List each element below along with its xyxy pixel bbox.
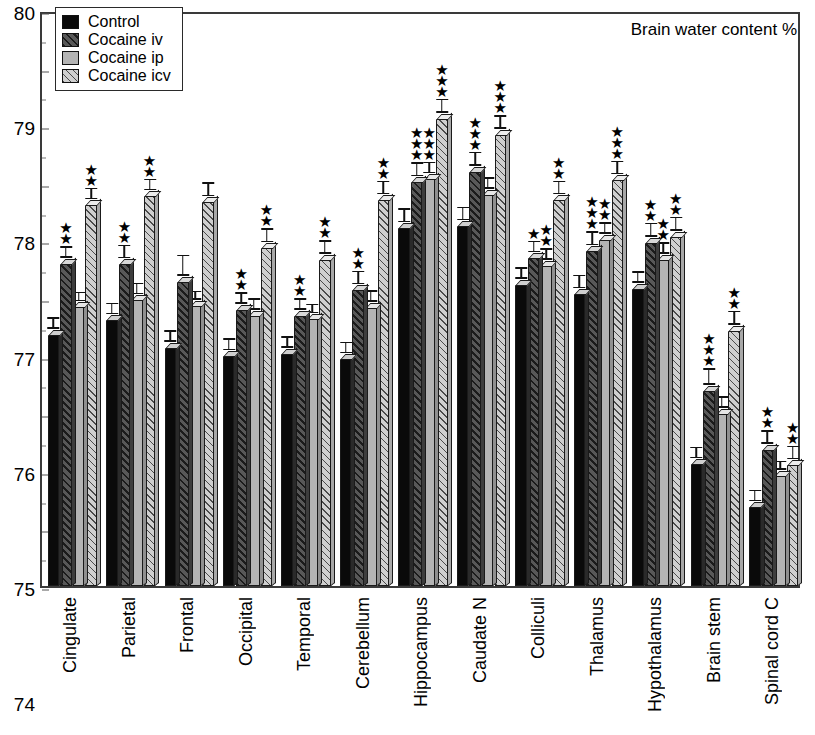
error-bar	[500, 115, 502, 129]
error-bar	[149, 179, 151, 191]
y-tick-label: 78	[14, 234, 35, 253]
star-icon: ★	[552, 168, 565, 179]
bar-side	[72, 257, 76, 586]
error-bar	[708, 368, 710, 384]
bar-side	[448, 112, 452, 586]
bar-control	[281, 349, 293, 586]
bar-face	[48, 335, 60, 586]
star-icon: ★	[527, 228, 540, 239]
star-icon: ★	[539, 235, 552, 246]
error-bar	[792, 446, 794, 460]
significance-marker: ★★	[786, 422, 799, 444]
error-bar	[487, 177, 489, 189]
bar-side	[552, 259, 556, 586]
x-axis-label: Occipital	[236, 597, 257, 729]
bar-group: ★★★★★★	[627, 14, 685, 586]
star-icon: ★	[235, 279, 248, 290]
bar-side	[176, 342, 180, 586]
legend-swatch-icv	[62, 69, 79, 83]
bar-side	[598, 245, 602, 586]
significance-marker: ★★	[552, 157, 565, 179]
error-bar	[253, 298, 255, 310]
bar-side	[189, 275, 193, 586]
error-bar	[170, 330, 172, 342]
error-bar	[357, 271, 359, 285]
x-axis-label: Spinal cord C	[762, 597, 783, 729]
significance-marker: ★★	[293, 274, 306, 296]
bar-group: ★★★★	[744, 14, 802, 586]
significance-marker: ★★	[727, 287, 740, 309]
bar-group: ★★★★★★★★	[568, 14, 626, 586]
bar-face	[574, 294, 586, 586]
error-bar	[345, 342, 347, 354]
bar-group	[159, 14, 217, 586]
error-bar	[266, 228, 268, 242]
error-bar	[90, 188, 92, 200]
bar-side	[84, 301, 88, 586]
x-axis-label: Cerebellum	[353, 597, 374, 729]
star-icon: ★	[84, 175, 97, 186]
bar-side	[143, 294, 147, 586]
legend-swatch-control	[62, 15, 79, 29]
star-icon: ★	[494, 102, 507, 113]
bar-side	[740, 324, 744, 586]
bar-control	[691, 459, 703, 586]
x-axis-label: Parietal	[119, 597, 140, 729]
bar-side	[118, 314, 122, 586]
error-bar	[733, 311, 735, 325]
bar-side	[539, 252, 543, 586]
x-axis-label: Temporal	[294, 597, 315, 729]
bar-side	[59, 328, 63, 586]
error-bar	[65, 246, 67, 258]
significance-marker: ★★	[351, 247, 364, 269]
error-bar	[533, 241, 535, 253]
bar-side	[155, 190, 159, 586]
chart-figure: 8079787776757473727170 ★★★★★★★★★★★★★★★★★…	[0, 0, 815, 735]
error-bar	[370, 290, 372, 302]
significance-marker: ★★	[84, 164, 97, 186]
star-icon: ★	[318, 227, 331, 238]
bar-side	[331, 253, 335, 586]
legend-swatch-ip	[62, 51, 79, 65]
error-bar	[558, 181, 560, 195]
bar-side	[761, 501, 765, 586]
bar-face	[165, 348, 177, 586]
error-bar	[579, 275, 581, 289]
legend-label: Cocaine ip	[88, 50, 164, 66]
y-tick-label: 75	[14, 580, 35, 599]
bar-side	[702, 458, 706, 586]
error-bar	[429, 162, 431, 174]
significance-marker: ★★★	[423, 127, 436, 160]
error-bar	[195, 291, 197, 300]
legend-label: Control	[88, 14, 140, 30]
bar-face	[691, 464, 703, 586]
bar-group: ★★★★★★	[451, 14, 509, 586]
bar-group: ★★★★	[42, 14, 100, 586]
bar-group: ★★★★★	[685, 14, 743, 586]
bar-control	[223, 351, 235, 586]
star-icon: ★	[468, 139, 481, 150]
bar-side	[130, 258, 134, 586]
x-axis-label: Brain stem	[704, 597, 725, 729]
x-axis-label: Hippocampus	[411, 597, 432, 729]
bar-side	[97, 199, 101, 586]
legend-swatch-iv	[62, 33, 79, 47]
x-axis-label: Colliculi	[528, 597, 549, 729]
star-icon: ★	[669, 204, 682, 215]
y-tick-label: 80	[14, 4, 35, 23]
error-bar	[754, 490, 756, 502]
y-tick-label: 77	[14, 350, 35, 369]
x-axis-label: Frontal	[177, 597, 198, 729]
significance-marker: ★★	[318, 216, 331, 238]
error-bar	[53, 317, 55, 329]
bar-face	[457, 226, 469, 586]
legend-item-ip: Cocaine ip	[62, 49, 171, 67]
bar-face	[515, 285, 527, 586]
bar-face	[632, 289, 644, 586]
x-axis-label: Hypothalamus	[645, 597, 666, 729]
bar-side	[669, 253, 673, 586]
star-icon: ★	[410, 149, 423, 160]
bar-face	[340, 359, 352, 586]
error-bar	[299, 298, 301, 310]
bar-side	[364, 284, 368, 586]
